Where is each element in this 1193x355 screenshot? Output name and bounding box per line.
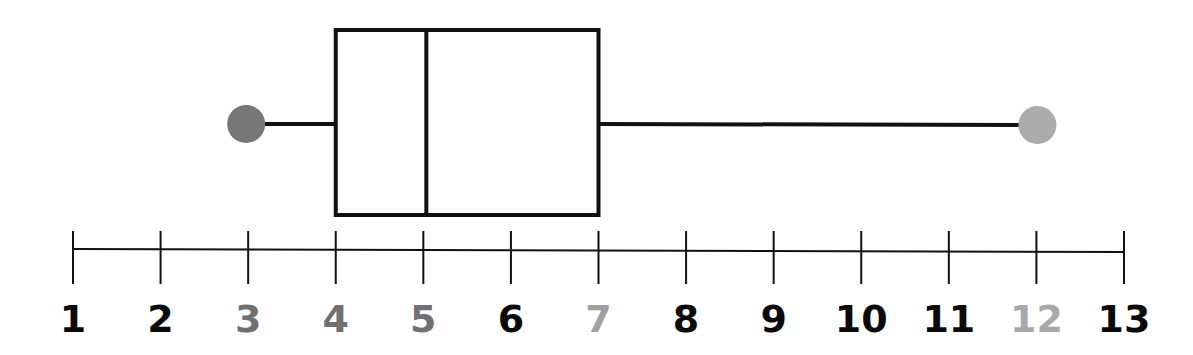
tick-label-11: 11 [922, 297, 975, 341]
box-plot-chart: 12345678910111213 [0, 0, 1193, 355]
tick-label-10: 10 [835, 297, 888, 341]
tick-label-1: 1 [60, 297, 86, 341]
min-point [227, 105, 265, 143]
tick-label-12: 12 [1010, 297, 1063, 341]
max-point [1018, 106, 1056, 144]
tick-label-13: 13 [1098, 297, 1151, 341]
tick-label-7: 7 [585, 297, 611, 341]
tick-label-2: 2 [147, 297, 173, 341]
tick-label-5: 5 [410, 297, 436, 341]
box-plot-svg: 12345678910111213 [0, 0, 1193, 355]
tick-label-9: 9 [760, 297, 786, 341]
upper-whisker [599, 124, 1037, 125]
interquartile-box [336, 30, 599, 215]
tick-label-6: 6 [498, 297, 524, 341]
tick-label-3: 3 [235, 297, 261, 341]
tick-label-4: 4 [323, 297, 349, 341]
tick-label-8: 8 [673, 297, 699, 341]
